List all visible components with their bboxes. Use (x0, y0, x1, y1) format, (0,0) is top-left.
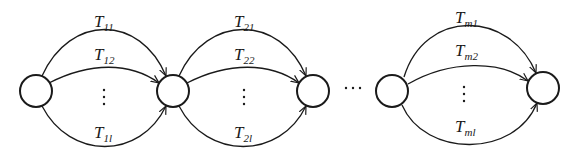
vdots-stage-2 (243, 89, 245, 105)
edge-T22 (187, 67, 299, 83)
transition-network-diagram: T11 T12 T1l T21 T22 T2l Tm1 Tm2 (0, 0, 568, 153)
diagram-canvas: T11 T12 T1l T21 T22 T2l Tm1 Tm2 (0, 0, 568, 153)
edge-Tm2 (408, 66, 528, 84)
label-Tml: Tml (455, 117, 475, 138)
label-Tm1: Tm1 (455, 8, 478, 29)
label-T1l: T1l (94, 123, 112, 144)
label-T21: T21 (234, 12, 254, 33)
label-T2l: T2l (234, 123, 252, 144)
stage-2: T21 T22 T2l (179, 12, 306, 147)
vdots-stage-m (463, 86, 465, 102)
edge-T12 (49, 67, 159, 83)
node-4 (527, 72, 559, 104)
vdots-stage-1 (103, 89, 105, 105)
node-0 (20, 75, 52, 107)
node-2 (297, 75, 329, 107)
node-3 (376, 75, 408, 107)
stage-m: Tm1 Tm2 Tml (402, 8, 537, 145)
edge-T11 (42, 30, 166, 77)
stage-1: T11 T12 T1l (42, 12, 166, 147)
label-T11: T11 (94, 12, 114, 33)
node-1 (157, 75, 189, 107)
edge-Tml (402, 103, 537, 145)
hdots-between-stages (345, 87, 361, 89)
label-Tm2: Tm2 (455, 41, 478, 62)
label-T22: T22 (234, 45, 255, 66)
label-T12: T12 (94, 45, 115, 66)
